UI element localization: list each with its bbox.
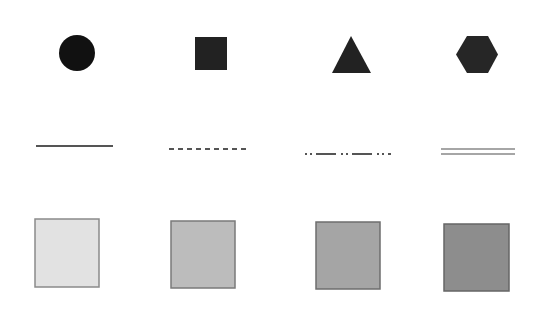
square-shape	[195, 37, 227, 70]
circle-shape	[59, 35, 95, 71]
fill-square-lightest	[35, 219, 99, 287]
hexagon-shape	[456, 36, 498, 73]
double-line	[441, 149, 515, 154]
fill-square-light	[171, 221, 235, 288]
triangle-shape	[332, 36, 371, 73]
shapes-canvas	[0, 0, 546, 312]
fill-square-medium	[316, 222, 380, 289]
fill-square-dark	[444, 224, 509, 291]
